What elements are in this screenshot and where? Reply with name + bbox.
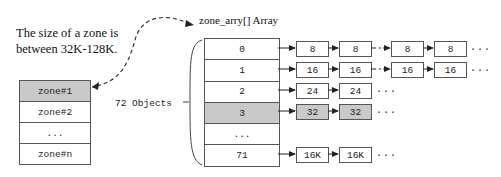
- arrowhead-icon: [185, 20, 194, 27]
- arrowhead-icon: [92, 82, 99, 90]
- connectors: [0, 0, 501, 177]
